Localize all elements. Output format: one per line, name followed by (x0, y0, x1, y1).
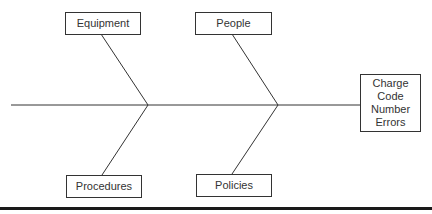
cause-box-equipment: Equipment (65, 12, 141, 35)
effect-line-2: Code (377, 90, 403, 103)
bone-policies (232, 105, 278, 174)
cause-label-procedures: Procedures (76, 180, 132, 193)
effect-line-1: Charge (372, 77, 408, 90)
cause-label-people: People (216, 17, 250, 30)
effect-line-4: Errors (376, 116, 406, 129)
cause-label-policies: Policies (215, 179, 253, 192)
cause-box-policies: Policies (196, 174, 272, 197)
cause-box-procedures: Procedures (66, 175, 142, 198)
bone-equipment (101, 34, 148, 105)
cause-label-equipment: Equipment (77, 17, 130, 30)
effect-box: Charge Code Number Errors (360, 74, 421, 132)
cause-box-people: People (195, 12, 272, 35)
bone-people (232, 34, 278, 105)
bottom-divider-rule (0, 207, 432, 210)
effect-line-3: Number (371, 103, 410, 116)
bone-procedures (102, 105, 148, 175)
fishbone-diagram: Equipment People Procedures Policies Cha… (0, 0, 432, 214)
